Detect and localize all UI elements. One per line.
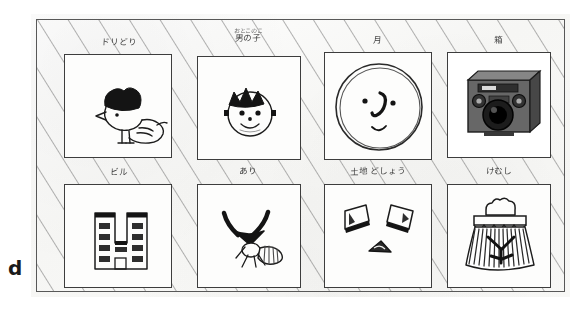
panel-boy-frame xyxy=(197,56,301,160)
panel-ant-frame xyxy=(197,184,301,288)
ant-drawing xyxy=(198,185,301,288)
panel-moon-frame xyxy=(324,52,432,160)
panel-building-caption: ビル xyxy=(57,167,182,179)
panel-camera-caption: 箱 xyxy=(443,35,556,46)
panel-shapes: 土地 どしょう xyxy=(316,162,440,292)
panel-boy-caption-main: 男の子 xyxy=(234,33,261,44)
panel-building-frame xyxy=(64,184,172,288)
panel-tree-frame xyxy=(447,184,551,288)
panel-boy-caption: おとこのこ 男の子 xyxy=(183,27,314,45)
panel-tree-caption: けむし xyxy=(443,166,556,177)
panel-bird: ドリどり xyxy=(57,32,181,162)
panel-ant: あり xyxy=(183,164,313,292)
panel-bird-caption: ドリどり xyxy=(57,37,182,49)
figure-root: d ドリどり xyxy=(0,0,574,315)
moon-face-drawing xyxy=(325,53,432,160)
panel-building: ビル xyxy=(57,166,181,292)
bird-drawing xyxy=(65,55,172,158)
panel-shapes-frame xyxy=(324,184,432,288)
panel-grid: ドリどり xyxy=(31,14,570,297)
panel-camera-frame xyxy=(447,52,551,158)
figure-panel-letter: d xyxy=(8,258,22,278)
abstract-shapes-drawing xyxy=(325,185,432,288)
panel-tree: けむし xyxy=(443,162,555,292)
tree-drawing xyxy=(448,185,551,288)
panel-ant-caption: あり xyxy=(183,166,314,178)
boy-face-drawing xyxy=(198,57,301,160)
box-camera-photo xyxy=(448,53,551,158)
panel-camera: 箱 xyxy=(443,32,555,162)
drawing-board: ドリどり xyxy=(31,14,570,297)
panel-moon: 月 xyxy=(316,32,440,162)
building-drawing xyxy=(65,185,172,288)
panel-bird-frame xyxy=(64,54,172,158)
panel-boy: おとこのこ 男の子 xyxy=(183,24,313,162)
panel-shapes-caption: 土地 どしょう xyxy=(316,166,441,178)
panel-moon-caption: 月 xyxy=(316,35,441,47)
